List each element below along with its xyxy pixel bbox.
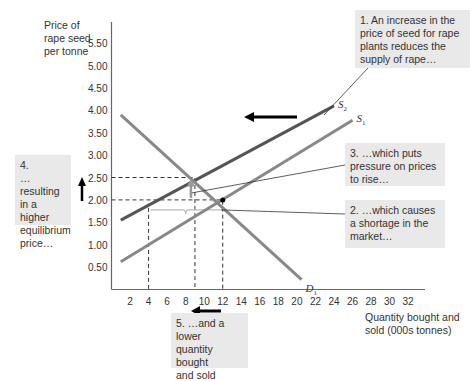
- x-tick-label: 6: [164, 296, 170, 307]
- x-axis-label: Quantity bought and sold (000s tonnes): [365, 311, 460, 337]
- curve-label-d1: D1: [305, 282, 318, 297]
- x-tick-label: 4: [146, 296, 152, 307]
- note-2-shortage: 2. …which causes a shortage in the marke…: [345, 200, 445, 248]
- x-tick-label: 16: [254, 296, 266, 307]
- curve-s1: [121, 120, 353, 262]
- new-equilibrium-guide: [112, 178, 195, 290]
- shortage-brace: [151, 210, 221, 214]
- original-equilibrium-guide: [112, 200, 223, 290]
- curve-label-s2: S2: [338, 98, 348, 113]
- y-tick-label: 4.00: [88, 105, 108, 116]
- x-tick-label: 32: [403, 296, 415, 307]
- leader-note-2: [221, 210, 345, 214]
- x-tick-label: 26: [347, 296, 359, 307]
- note-4-higher-price: 4. …resulting in a higher equilibrium pr…: [15, 155, 71, 225]
- note-3-price-pressure: 3. …which puts pressure on prices to ris…: [345, 143, 445, 186]
- y-tick-label: 2.50: [88, 173, 108, 184]
- note-1-supply-decrease: 1. An increase in the price of seed for …: [355, 10, 470, 68]
- note-5-lower-quantity: 5. …and a lower quantity bought and sold: [171, 313, 248, 368]
- y-tick-label: 3.00: [88, 150, 108, 161]
- x-tick-label: 22: [310, 296, 322, 307]
- x-tick-label: 14: [236, 296, 248, 307]
- x-tick-label: 2: [127, 296, 133, 307]
- price-increase-arrowhead: [78, 177, 86, 186]
- x-tick-label: 28: [365, 296, 377, 307]
- x-tick-label: 10: [199, 296, 211, 307]
- y-tick-label: 1.00: [88, 240, 108, 251]
- x-tick-label: 30: [384, 296, 396, 307]
- y-tick-label: 4.50: [88, 83, 108, 94]
- equilibrium-point: [220, 197, 225, 202]
- y-tick-label: 0.50: [88, 262, 108, 273]
- y-tick-label: 2.00: [88, 195, 108, 206]
- y-tick-label: 3.50: [88, 128, 108, 139]
- supply-shift-arrowhead: [244, 112, 254, 122]
- y-tick-label: 1.50: [88, 217, 108, 228]
- curve-d1: [121, 115, 302, 280]
- y-tick-label: 5.50: [88, 38, 108, 49]
- curve-s2: [121, 106, 334, 220]
- x-tick-label: 18: [273, 296, 285, 307]
- x-tick-label: 20: [291, 296, 303, 307]
- y-tick-label: 5.00: [88, 61, 108, 72]
- curve-label-s1: S1: [357, 112, 367, 127]
- x-tick-label: 12: [217, 296, 229, 307]
- x-tick-label: 24: [328, 296, 340, 307]
- x-tick-label: 8: [183, 296, 189, 307]
